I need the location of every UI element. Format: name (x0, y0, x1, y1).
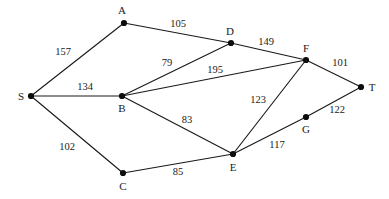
edge-b-e (122, 96, 233, 154)
node-d[interactable] (228, 40, 234, 46)
node-e[interactable] (230, 151, 236, 157)
node-f[interactable] (303, 57, 309, 63)
edge-weight-e-f: 123 (250, 95, 266, 106)
edge-weight-f-t: 101 (332, 58, 348, 69)
edge-weight-s-c: 102 (59, 142, 75, 153)
node-a[interactable] (121, 20, 127, 26)
node-c[interactable] (120, 170, 126, 176)
edge-weight-d-f: 149 (258, 37, 274, 48)
node-b[interactable] (119, 93, 125, 99)
node-label-a: A (118, 5, 126, 16)
edge-weight-b-d: 79 (162, 58, 173, 69)
edge-weight-s-a: 157 (55, 47, 71, 58)
edge-weight-b-f: 195 (207, 65, 223, 76)
node-label-c: C (119, 181, 126, 192)
graph-canvas (0, 0, 389, 199)
nodes-group (28, 20, 364, 176)
edge-weight-b-e: 83 (182, 115, 193, 126)
edge-s-c (31, 96, 123, 173)
edge-weight-g-t: 122 (329, 105, 345, 116)
node-label-f: F (303, 43, 309, 54)
node-s[interactable] (28, 93, 34, 99)
node-label-g: G (302, 124, 310, 135)
edge-weight-e-g: 117 (269, 140, 284, 151)
node-g[interactable] (303, 114, 309, 120)
graph-diagram: 157134102105791958314912385117122101SABC… (0, 0, 389, 199)
node-label-d: D (226, 26, 234, 37)
edge-weight-s-b: 134 (77, 82, 93, 93)
edge-weight-c-e: 85 (173, 167, 184, 178)
node-label-s: S (18, 91, 24, 102)
edges-group (31, 23, 361, 173)
node-label-b: B (118, 103, 125, 114)
node-label-t: T (369, 82, 376, 93)
node-t[interactable] (358, 84, 364, 90)
node-label-e: E (230, 162, 237, 173)
edge-weight-a-d: 105 (170, 19, 186, 30)
